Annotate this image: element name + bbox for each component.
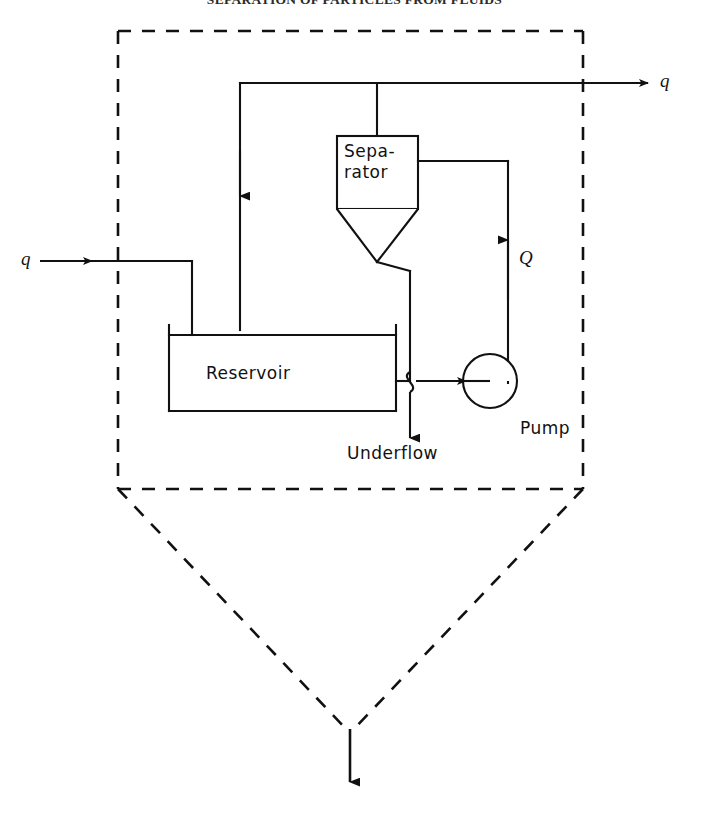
separator-cone: [337, 209, 418, 262]
separator-label: Sepa- rator: [344, 141, 395, 183]
underflow-label: Underflow: [347, 443, 438, 463]
underflow-pipe: [377, 262, 410, 380]
separator-side-outlet: [418, 161, 508, 384]
feed-inlet-label-q: q: [21, 248, 31, 270]
diagram-page: SEPARATION OF PARTICLES FROM FLUIDS: [0, 0, 709, 820]
pump-label: Pump: [520, 418, 570, 438]
process-flow-diagram: [0, 0, 709, 820]
pump-discharge-label-Q: Q: [519, 247, 533, 269]
separator-label-line1: Sepa-: [344, 141, 395, 162]
overhead-outlet-label-q: q: [660, 70, 670, 92]
reservoir-label: Reservoir: [206, 363, 291, 383]
pump-unit: [463, 354, 517, 408]
separator-label-line2: rator: [344, 162, 395, 183]
feed-inlet-line: [72, 261, 192, 335]
